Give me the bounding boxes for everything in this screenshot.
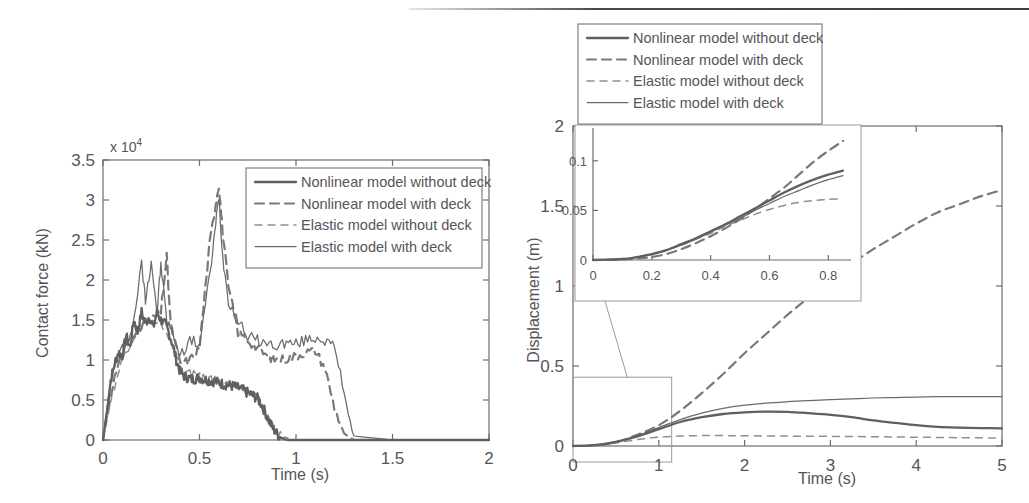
y-tick-label: 0 bbox=[555, 437, 564, 456]
y-multiplier-label: x 104 bbox=[110, 137, 142, 155]
figure-canvas: 00.511.5200.511.522.533.5 x 104 Time (s)… bbox=[0, 0, 1029, 503]
y-axis-label: Contact force (kN) bbox=[34, 228, 51, 358]
x-tick-label: 4 bbox=[911, 456, 920, 475]
x-tick-label: 2 bbox=[740, 456, 749, 475]
series-el_w bbox=[573, 397, 1002, 446]
y-axis-label: Displacement (m) bbox=[525, 237, 542, 362]
x-axis-label: Time (s) bbox=[798, 470, 856, 487]
x-tick-label: 1 bbox=[654, 456, 663, 475]
legend-label: Nonlinear model with deck bbox=[301, 196, 472, 212]
x-tick-label: 5 bbox=[997, 456, 1006, 475]
legend-label: Nonlinear model without deck bbox=[301, 174, 492, 190]
x-tick-label: 0 bbox=[568, 456, 577, 475]
displacement-panel: 01234500.511.52 Time (s) Displacement (m… bbox=[509, 0, 1029, 503]
legend-label: Elastic model without deck bbox=[301, 217, 473, 233]
y-tick-label: 3.5 bbox=[71, 151, 95, 170]
legend-label: Nonlinear model with deck bbox=[633, 52, 804, 68]
y-tick-label: 1.5 bbox=[71, 311, 95, 330]
legend-label: Elastic model without deck bbox=[633, 73, 805, 89]
series-nl_wo bbox=[573, 412, 1002, 446]
y-tick-label: 1.5 bbox=[540, 197, 564, 216]
displacement-inset: 00.20.40.60.800.050.1 bbox=[562, 125, 861, 301]
displacement-svg: 01234500.511.52 Time (s) Displacement (m… bbox=[509, 0, 1029, 503]
inset-x-tick-label: 0.6 bbox=[760, 268, 778, 283]
series-nl_wo bbox=[103, 308, 489, 440]
y-tick-label: 0.5 bbox=[71, 391, 95, 410]
x-tick-label: 2 bbox=[484, 449, 493, 468]
x-tick-label: 1.5 bbox=[381, 449, 405, 468]
y-tick-label: 2.5 bbox=[71, 231, 95, 250]
inset-x-tick-label: 0.2 bbox=[643, 268, 661, 283]
x-tick-label: 0.5 bbox=[188, 449, 212, 468]
y-tick-label: 2 bbox=[86, 271, 95, 290]
y-tick-label: 3 bbox=[86, 191, 95, 210]
contact-force-svg: 00.511.5200.511.522.533.5 x 104 Time (s)… bbox=[0, 0, 520, 503]
inset-x-tick-label: 0.4 bbox=[702, 268, 720, 283]
series-el_wo bbox=[103, 319, 489, 440]
legend-label: Elastic model with deck bbox=[301, 239, 452, 255]
y-tick-label: 2 bbox=[555, 117, 564, 136]
inset-y-tick-label: 0.05 bbox=[562, 203, 587, 218]
x-axis-label: Time (s) bbox=[271, 466, 329, 483]
contact-force-panel: 00.511.5200.511.522.533.5 x 104 Time (s)… bbox=[0, 0, 520, 503]
inset-y-tick-label: 0 bbox=[580, 253, 587, 268]
contact-force-legend[interactable]: Nonlinear model without deckNonlinear mo… bbox=[246, 168, 492, 268]
displacement-legend[interactable]: Nonlinear model without deckNonlinear mo… bbox=[578, 24, 824, 124]
y-tick-label: 1 bbox=[555, 277, 564, 296]
inset-y-tick-label: 0.1 bbox=[569, 154, 587, 169]
y-tick-label: 0 bbox=[86, 431, 95, 450]
inset-x-tick-label: 0.8 bbox=[819, 268, 837, 283]
y-tick-label: 1 bbox=[86, 351, 95, 370]
inset-x-tick-label: 0 bbox=[589, 268, 596, 283]
x-tick-label: 0 bbox=[98, 449, 107, 468]
zoom-region-rect bbox=[573, 377, 672, 462]
legend-label: Nonlinear model without deck bbox=[633, 30, 824, 46]
legend-label: Elastic model with deck bbox=[633, 95, 784, 111]
y-tick-label: 0.5 bbox=[540, 357, 564, 376]
